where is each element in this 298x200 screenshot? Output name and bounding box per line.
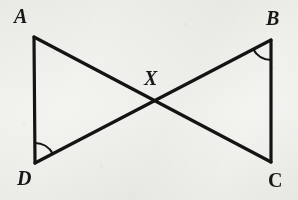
figure-canvas [0,0,298,200]
geometry-figure: A B C D X [0,0,298,200]
segments-group [34,37,271,163]
vertex-label-d: D [17,168,31,188]
angle-arc-d [35,143,53,154]
angle-arc-b [253,49,271,60]
segment-AD [34,37,35,163]
vertex-label-b: B [266,8,279,28]
vertex-label-c: C [268,170,282,190]
vertex-label-a: A [14,6,27,26]
vertex-label-x: X [144,68,157,88]
